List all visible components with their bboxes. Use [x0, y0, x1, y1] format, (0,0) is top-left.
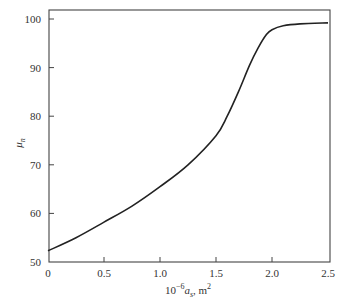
y-tick-label: 90 — [30, 62, 42, 74]
line-chart: 5060708090100 00.51.01.52.02.5 μn 10−6as… — [0, 0, 346, 306]
x-tick-label: 0 — [45, 267, 51, 279]
x-tick-label: 1.5 — [209, 267, 223, 279]
y-tick-label: 70 — [30, 159, 42, 171]
plot-frame — [49, 10, 330, 262]
y-tick-label: 100 — [25, 13, 42, 25]
y-tick-label: 80 — [30, 110, 42, 122]
x-tick-label: 2.0 — [265, 267, 279, 279]
x-axis-title: 10−6as, m2 — [165, 282, 211, 299]
y-axis-title: μn — [12, 138, 27, 149]
x-axis-ticks: 00.51.01.52.02.5 — [45, 257, 335, 279]
y-axis-ticks: 5060708090100 — [25, 13, 55, 268]
y-tick-label: 60 — [30, 207, 42, 219]
plot-border — [49, 10, 330, 262]
x-tick-label: 2.5 — [321, 267, 335, 279]
x-tick-label: 1.0 — [153, 267, 167, 279]
data-line — [48, 23, 328, 251]
y-tick-label: 50 — [30, 256, 42, 268]
x-tick-label: 0.5 — [97, 267, 111, 279]
